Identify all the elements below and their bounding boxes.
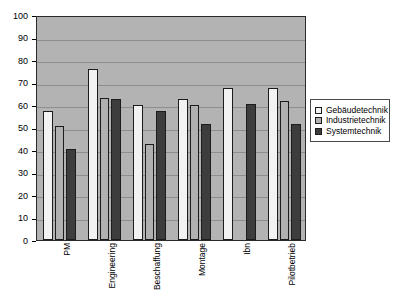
bar	[100, 98, 110, 240]
legend-label: Gebäudetechnik	[326, 106, 388, 115]
legend-item: Gebäudetechnik	[315, 106, 386, 115]
y-axis-tick-label: 90	[0, 34, 28, 43]
bar	[291, 124, 301, 240]
bar	[178, 99, 188, 240]
bar	[55, 126, 65, 240]
legend-swatch-icon	[315, 117, 322, 124]
y-axis-tick-label: 10	[0, 214, 28, 223]
chart-legend: GebäudetechnikIndustrietechnikSystemtech…	[310, 99, 390, 142]
y-axis-tick-label: 60	[0, 102, 28, 111]
bar	[66, 149, 76, 240]
y-axis-tick-label: 70	[0, 79, 28, 88]
y-axis-tick-label: 20	[0, 192, 28, 201]
y-axis: 0102030405060708090100	[0, 16, 32, 241]
x-axis-labels: PMEngineeringBeschaffungMontageIbnPilotb…	[36, 243, 306, 306]
x-axis-label: Pilotbetrieb	[288, 243, 297, 286]
bar	[133, 105, 143, 240]
legend-item: Systemtechnik	[315, 127, 386, 136]
legend-label: Industrietechnik	[326, 116, 386, 125]
bar	[88, 69, 98, 240]
y-axis-tick-label: 40	[0, 147, 28, 156]
bar	[111, 99, 121, 240]
bar	[246, 104, 256, 240]
bar	[190, 105, 200, 240]
bar	[156, 111, 166, 240]
plot-area	[36, 16, 306, 241]
x-axis-label: Ibn	[243, 243, 252, 255]
bar	[268, 88, 278, 240]
legend-swatch-icon	[315, 128, 322, 135]
bar	[201, 124, 211, 240]
bar	[280, 101, 290, 241]
y-axis-tick-mark	[32, 241, 36, 242]
y-axis-tick-label: 100	[0, 12, 28, 21]
legend-swatch-icon	[315, 107, 322, 114]
bar	[145, 144, 155, 240]
legend-label: Systemtechnik	[326, 127, 381, 136]
x-axis-label: Montage	[198, 243, 207, 276]
bar-chart: 0102030405060708090100 PMEngineeringBesc…	[0, 0, 393, 306]
x-axis-label: Beschaffung	[153, 243, 162, 290]
y-axis-tick-label: 80	[0, 57, 28, 66]
bars-layer	[37, 17, 305, 240]
bar	[223, 88, 233, 240]
y-axis-tick-label: 30	[0, 169, 28, 178]
y-axis-tick-label: 0	[0, 237, 28, 246]
y-axis-tick-label: 50	[0, 124, 28, 133]
x-axis-label: PM	[63, 243, 72, 256]
x-axis-label: Engineering	[108, 243, 117, 288]
bar	[43, 111, 53, 240]
legend-item: Industrietechnik	[315, 116, 386, 125]
